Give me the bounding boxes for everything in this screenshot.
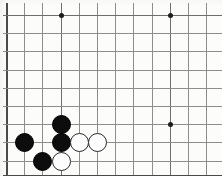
grid-line-vertical-7	[133, 3, 134, 176]
grid-line-horizontal-2	[3, 51, 222, 52]
star-point-1	[168, 13, 173, 18]
go-board-diagram	[0, 0, 222, 182]
white-stone-5[interactable]	[88, 133, 107, 152]
grid-line-vertical-10	[188, 3, 189, 176]
grid-line-horizontal-3	[3, 70, 222, 71]
grid-line-vertical-9	[170, 3, 171, 176]
black-stone-0[interactable]	[52, 115, 71, 134]
white-stone-4[interactable]	[70, 133, 89, 152]
grid-line-vertical-6	[115, 3, 116, 176]
grid-line-vertical-0	[6, 3, 8, 176]
grid-line-vertical-2	[42, 3, 43, 176]
grid-line-horizontal-6	[3, 124, 222, 125]
black-stone-1[interactable]	[15, 133, 34, 152]
grid-line-horizontal-1	[3, 33, 222, 34]
grid-line-horizontal-0	[3, 15, 222, 16]
star-point-0	[59, 13, 64, 18]
grid-line-horizontal-7	[3, 142, 222, 143]
board-bottom-margin	[0, 176, 222, 182]
black-stone-2[interactable]	[52, 133, 71, 152]
grid-line-vertical-8	[152, 3, 153, 176]
black-stone-3[interactable]	[33, 152, 52, 171]
grid-line-vertical-11	[206, 3, 207, 176]
grid-line-horizontal-5	[3, 106, 222, 107]
star-point-2	[168, 122, 173, 127]
white-stone-6[interactable]	[52, 152, 71, 171]
grid-line-horizontal-4	[3, 88, 222, 89]
